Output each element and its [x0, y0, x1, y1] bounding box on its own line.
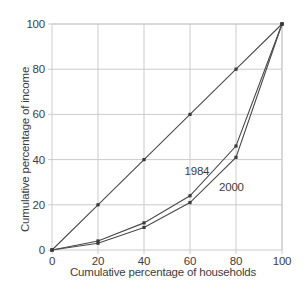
series-line-of-equality-marker [96, 203, 99, 206]
series-lorenz-2000-marker [142, 226, 145, 229]
series-lorenz-1984-marker [188, 194, 191, 197]
series-lorenz-2000-label: 2000 [219, 181, 244, 193]
series-lorenz-2000-marker [96, 242, 99, 245]
series-lorenz-1984-label: 1984 [185, 165, 211, 177]
y-tick-label: 0 [39, 244, 45, 256]
y-tick-label: 100 [26, 18, 45, 30]
plot-area: 02040608010002040608010019842000 [0, 0, 304, 303]
y-tick-label: 20 [33, 199, 45, 211]
series-lorenz-2000-marker [50, 248, 53, 251]
series-lorenz-2000-marker [188, 201, 191, 204]
series-lorenz-2000-marker [234, 156, 237, 159]
y-tick-label: 80 [33, 63, 45, 75]
lorenz-curve-chart: 02040608010002040608010019842000 Cumulat… [0, 0, 304, 303]
series-lorenz-2000-marker [280, 22, 283, 25]
y-tick-label: 60 [33, 108, 45, 120]
y-tick-label: 40 [33, 154, 45, 166]
series-lorenz-1984-marker [234, 144, 237, 147]
series-line-of-equality-marker [188, 113, 191, 116]
series-line-of-equality-marker [234, 68, 237, 71]
series-line-of-equality-line [52, 24, 282, 250]
series-lorenz-1984-marker [142, 221, 145, 224]
x-axis-title: Cumulative percentage of households [0, 266, 304, 278]
y-axis-title: Cumulative percentage of income [19, 67, 31, 232]
series-line-of-equality-marker [142, 158, 145, 161]
